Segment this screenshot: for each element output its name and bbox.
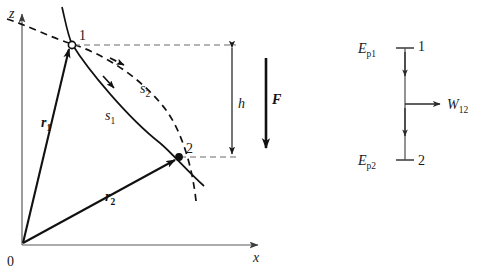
path-s2-label: s2 [140, 81, 150, 99]
point-2-label: 2 [186, 141, 193, 156]
s1-direction-arrow [103, 76, 114, 88]
point-markers [68, 41, 182, 160]
energy-bottom-point-label: 2 [418, 153, 425, 168]
energy-top-point-label: 1 [418, 39, 425, 54]
point-2-marker [176, 154, 182, 160]
z-axis-label: z [8, 6, 15, 21]
force-label: F [271, 92, 282, 107]
point-1-marker [68, 41, 75, 48]
physics-diagram-figure: z x 0 1 2 s1 s2 r1 r2 h F Ep1 1 Ep2 2 W1… [0, 0, 477, 271]
energy-level-diagram [396, 48, 440, 160]
position-vectors [23, 49, 175, 243]
vector-r2-label: r2 [105, 189, 115, 207]
origin-label: 0 [7, 254, 14, 269]
path-s2-curve [7, 19, 196, 201]
energy-bottom-label: Ep2 [357, 153, 376, 171]
trajectory-curves [7, 7, 204, 201]
path-direction-markers [103, 58, 124, 88]
height-label: h [238, 96, 245, 111]
diagram-canvas: z x 0 1 2 s1 s2 r1 r2 h F Ep1 1 Ep2 2 W1… [0, 0, 477, 271]
vector-r1-label: r1 [41, 115, 51, 133]
path-s1-label: s1 [105, 108, 115, 126]
work-label: W12 [447, 97, 468, 115]
coordinate-axes [22, 14, 258, 245]
vector-r2-arrow [23, 160, 175, 243]
x-axis-label: x [252, 250, 260, 265]
point-1-label: 1 [79, 28, 86, 43]
vector-r1-arrow [23, 49, 69, 243]
energy-top-label: Ep1 [357, 41, 376, 59]
height-dimension-group [74, 45, 236, 157]
